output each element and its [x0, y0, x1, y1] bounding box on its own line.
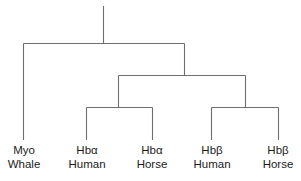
leaf-label-myo-whale: Myo Whale — [8, 143, 41, 171]
leaf-label-hbb-horse: Hbβ Horse — [263, 143, 294, 171]
leaf-label-line1: Hbβ — [263, 143, 294, 157]
leaf-label-line1: Hbα — [137, 143, 168, 157]
leaf-label-hba-human: Hbα Human — [68, 143, 105, 171]
leaf-label-line1: Hbβ — [193, 143, 230, 157]
leaf-label-line2: Horse — [137, 157, 168, 171]
phylogenetic-tree-diagram: Myo Whale Hbα Human Hbα Horse Hbβ Human … — [0, 0, 301, 181]
leaf-label-line2: Whale — [8, 157, 41, 171]
leaf-label-hbb-human: Hbβ Human — [193, 143, 230, 171]
leaf-label-hba-horse: Hbα Horse — [137, 143, 168, 171]
leaf-label-line2: Human — [68, 157, 105, 171]
leaf-label-line2: Human — [193, 157, 230, 171]
leaf-label-line1: Hbα — [68, 143, 105, 157]
leaf-label-line2: Horse — [263, 157, 294, 171]
leaf-label-line1: Myo — [8, 143, 41, 157]
